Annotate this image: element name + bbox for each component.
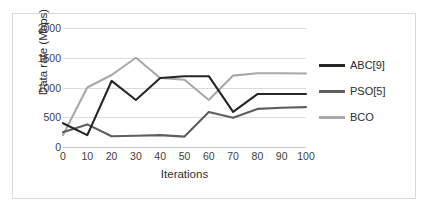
- x-tick-label: 100: [297, 150, 315, 162]
- x-tick-label: 60: [203, 150, 215, 162]
- x-tick-label: 10: [81, 150, 93, 162]
- legend-item[interactable]: ABC[9]: [319, 52, 413, 78]
- series-line-pso-5: [63, 107, 306, 136]
- legend-item[interactable]: BCO: [319, 104, 413, 130]
- gridline-0: [63, 147, 306, 148]
- x-tick-label: 40: [154, 150, 166, 162]
- legend-swatch-icon: [319, 64, 345, 67]
- legend-item[interactable]: PSO[5]: [319, 78, 413, 104]
- legend-item-label: BCO: [350, 111, 374, 123]
- series-lines: [63, 28, 306, 147]
- y-tick-label: 1000: [15, 82, 61, 94]
- y-axis-tick-labels: 0500100015002000: [13, 28, 61, 147]
- line-chart: Data rate (Mbps) 0500100015002000 010203…: [13, 14, 415, 198]
- series-line-abc-9: [63, 76, 306, 135]
- x-tick-label: 70: [227, 150, 239, 162]
- y-tick-label: 0: [15, 141, 61, 153]
- x-axis-title: Iterations: [63, 168, 306, 180]
- series-line-bco: [63, 58, 306, 135]
- y-tick-label: 1500: [15, 52, 61, 64]
- legend-item-label: PSO[5]: [350, 85, 385, 97]
- y-tick-label: 500: [15, 111, 61, 123]
- x-axis-tick-labels: 0102030405060708090100: [63, 150, 306, 166]
- x-tick-label: 90: [276, 150, 288, 162]
- x-tick-label: 80: [252, 150, 264, 162]
- x-tick-label: 20: [106, 150, 118, 162]
- plot-area: [63, 28, 306, 147]
- legend-item-label: ABC[9]: [350, 59, 385, 71]
- y-tick-label: 2000: [15, 22, 61, 34]
- x-tick-label: 50: [179, 150, 191, 162]
- chart-legend: ABC[9]PSO[5]BCO: [319, 52, 413, 130]
- chart-figure-frame: Data rate (Mbps) 0500100015002000 010203…: [12, 13, 416, 199]
- legend-swatch-icon: [319, 90, 345, 93]
- x-tick-label: 0: [60, 150, 66, 162]
- legend-swatch-icon: [319, 116, 345, 119]
- x-tick-label: 30: [130, 150, 142, 162]
